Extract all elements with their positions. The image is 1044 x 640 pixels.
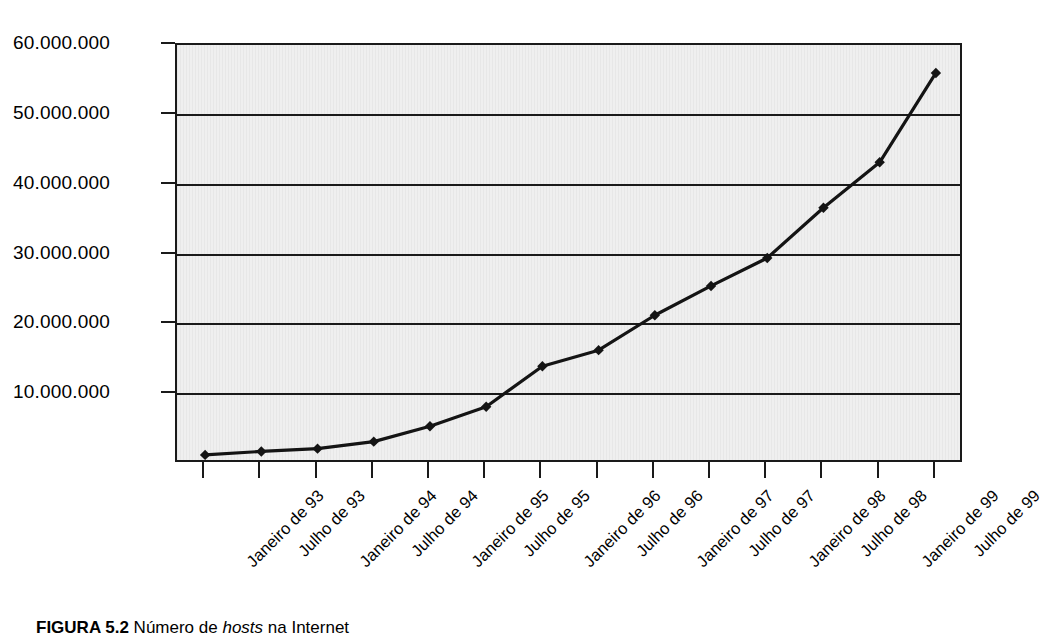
y-tick-mark: [161, 252, 175, 254]
line-series: [177, 45, 964, 464]
caption-text-after: na Internet: [263, 618, 349, 637]
y-tick-label: 60.000.000: [13, 32, 110, 54]
x-tick-mark: [371, 462, 373, 478]
data-point-marker: [312, 443, 322, 453]
caption-label: FIGURA 5.2: [36, 618, 129, 637]
x-tick-mark: [315, 462, 317, 478]
data-point-marker: [256, 446, 266, 456]
y-tick-label: 10.000.000: [13, 381, 110, 403]
x-tick-mark: [202, 462, 204, 478]
x-tick-mark: [708, 462, 710, 478]
y-tick-mark: [161, 391, 175, 393]
y-tick-label: 20.000.000: [13, 311, 110, 333]
caption-emphasis: hosts: [222, 618, 263, 637]
x-tick-mark: [539, 462, 541, 478]
x-tick-mark: [764, 462, 766, 478]
plot-area: [175, 43, 962, 462]
y-tick-label: 40.000.000: [13, 172, 110, 194]
x-tick-mark: [596, 462, 598, 478]
y-tick-mark: [161, 321, 175, 323]
data-point-marker: [369, 436, 379, 446]
y-axis: 10.000.00020.000.00030.000.00040.000.000…: [0, 0, 150, 640]
x-tick-mark: [652, 462, 654, 478]
y-tick-mark: [161, 182, 175, 184]
x-tick-mark: [933, 462, 935, 478]
caption-text-before: Número de: [129, 618, 223, 637]
x-tick-mark: [820, 462, 822, 478]
data-point-marker: [425, 421, 435, 431]
x-tick-mark: [877, 462, 879, 478]
y-tick-mark: [161, 42, 175, 44]
x-tick-mark: [483, 462, 485, 478]
y-tick-label: 30.000.000: [13, 242, 110, 264]
figure-caption: FIGURA 5.2 Número de hosts na Internet: [36, 618, 349, 638]
y-tick-label: 50.000.000: [13, 102, 110, 124]
y-tick-mark: [161, 112, 175, 114]
x-tick-mark: [258, 462, 260, 478]
series-line: [205, 73, 936, 455]
x-tick-mark: [427, 462, 429, 478]
data-point-marker: [200, 450, 210, 460]
